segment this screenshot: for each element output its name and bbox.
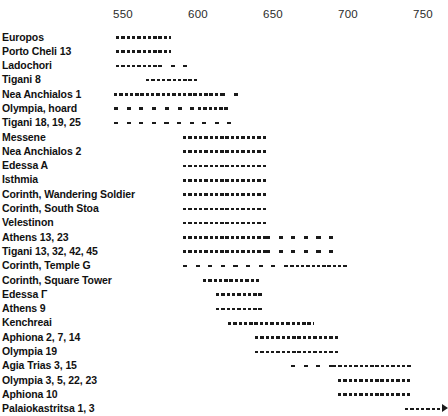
axis-tick-label-700: 700 — [338, 8, 358, 20]
bar-track — [0, 130, 447, 144]
chart-row: Edessa Γ — [0, 287, 447, 301]
bar-track — [0, 330, 447, 344]
date-range-segment — [114, 122, 231, 125]
date-range-segment — [333, 365, 411, 368]
date-range-segment — [255, 351, 339, 354]
date-range-segment — [266, 236, 341, 239]
bar-track — [0, 87, 447, 101]
chart-row: Nea Anchialos 2 — [0, 144, 447, 158]
bar-track — [0, 373, 447, 387]
bar-track — [0, 359, 447, 373]
date-range-segment — [183, 136, 266, 139]
chart-row: Tigani 18, 19, 25 — [0, 116, 447, 130]
bar-track — [0, 187, 447, 201]
date-range-segment — [165, 107, 198, 110]
date-range-segment — [116, 65, 158, 68]
chart-row: Edessa A — [0, 159, 447, 173]
bar-track — [0, 345, 447, 359]
date-range-segment — [183, 165, 266, 168]
chart-row: Olympia, hoard — [0, 101, 447, 115]
date-range-segment — [224, 107, 236, 110]
chart-row: Aphiona 10 — [0, 387, 447, 401]
bar-track — [0, 216, 447, 230]
time-axis: 550600650700750 — [0, 0, 447, 30]
chart-rows: EuroposPorto Cheli 13LadochoriTigani 8Ne… — [0, 30, 447, 416]
date-range-segment — [338, 393, 410, 396]
date-range-segment — [183, 236, 266, 239]
chart-row: Corinth, South Stoa — [0, 202, 447, 216]
date-range-segment — [183, 193, 266, 196]
bar-track — [0, 287, 447, 301]
date-range-segment — [221, 93, 239, 96]
axis-tick-label-650: 650 — [263, 8, 283, 20]
chart-row: Europos — [0, 30, 447, 44]
bar-track — [0, 173, 447, 187]
bar-track — [0, 402, 447, 416]
bar-track — [0, 302, 447, 316]
chart-row: Athens 9 — [0, 302, 447, 316]
date-range-segment — [146, 79, 199, 82]
date-range-segment — [183, 222, 266, 225]
chart-row: Corinth, Square Tower — [0, 273, 447, 287]
bar-track — [0, 316, 447, 330]
date-range-segment — [266, 250, 341, 253]
chart-row: Messene — [0, 130, 447, 144]
bar-track — [0, 30, 447, 44]
date-range-segment — [216, 293, 264, 296]
date-range-segment — [338, 379, 410, 382]
chart-row: Kenchreai — [0, 316, 447, 330]
date-range-segment — [183, 265, 285, 268]
chart-row: Athens 13, 23 — [0, 230, 447, 244]
bar-track — [0, 202, 447, 216]
chart-row: Tigani 8 — [0, 73, 447, 87]
bar-track — [0, 387, 447, 401]
bar-track — [0, 273, 447, 287]
open-ended-arrow-icon — [442, 404, 448, 412]
chart-row: Nea Anchialos 1 — [0, 87, 447, 101]
chart-row: Agia Trias 3, 15 — [0, 359, 447, 373]
chart-row: Aphiona 2, 7, 14 — [0, 330, 447, 344]
bar-track — [0, 44, 447, 58]
date-range-segment — [405, 408, 441, 411]
chart-row: Olympia 19 — [0, 345, 447, 359]
chart-row: Olympia 3, 5, 22, 23 — [0, 373, 447, 387]
date-range-segment — [116, 50, 172, 53]
date-range-segment — [255, 336, 339, 339]
axis-tick-label-550: 550 — [113, 8, 133, 20]
bar-track — [0, 59, 447, 73]
bar-track — [0, 259, 447, 273]
bar-track — [0, 144, 447, 158]
date-range-segment — [203, 279, 260, 282]
bar-track — [0, 101, 447, 115]
date-range-segment — [228, 322, 314, 325]
axis-tick-label-750: 750 — [413, 8, 433, 20]
date-range-segment — [285, 265, 348, 268]
date-range-segment — [198, 107, 224, 110]
axis-tick-label-600: 600 — [188, 8, 208, 20]
chart-row: Isthmia — [0, 173, 447, 187]
date-range-segment — [114, 107, 161, 110]
bar-track — [0, 73, 447, 87]
chart-row: Corinth, Temple G — [0, 259, 447, 273]
date-range-segment — [291, 365, 333, 368]
chart-row: Porto Cheli 13 — [0, 44, 447, 58]
chart-row: Ladochori — [0, 59, 447, 73]
date-range-segment — [183, 150, 266, 153]
date-range-segment — [183, 179, 266, 182]
chart-row: Corinth, Wandering Soldier — [0, 187, 447, 201]
date-range-segment — [183, 250, 266, 253]
chart-row: Tigani 13, 32, 42, 45 — [0, 244, 447, 258]
date-range-segment — [116, 36, 172, 39]
date-range-segment — [216, 308, 264, 311]
date-range-segment — [114, 93, 221, 96]
bar-track — [0, 230, 447, 244]
date-range-segment — [183, 208, 266, 211]
bar-track — [0, 116, 447, 130]
date-range-segment — [158, 65, 190, 68]
bar-track — [0, 159, 447, 173]
chart-row: Velestinon — [0, 216, 447, 230]
chart-row: Palaiokastritsa 1, 3 — [0, 402, 447, 416]
bar-track — [0, 244, 447, 258]
